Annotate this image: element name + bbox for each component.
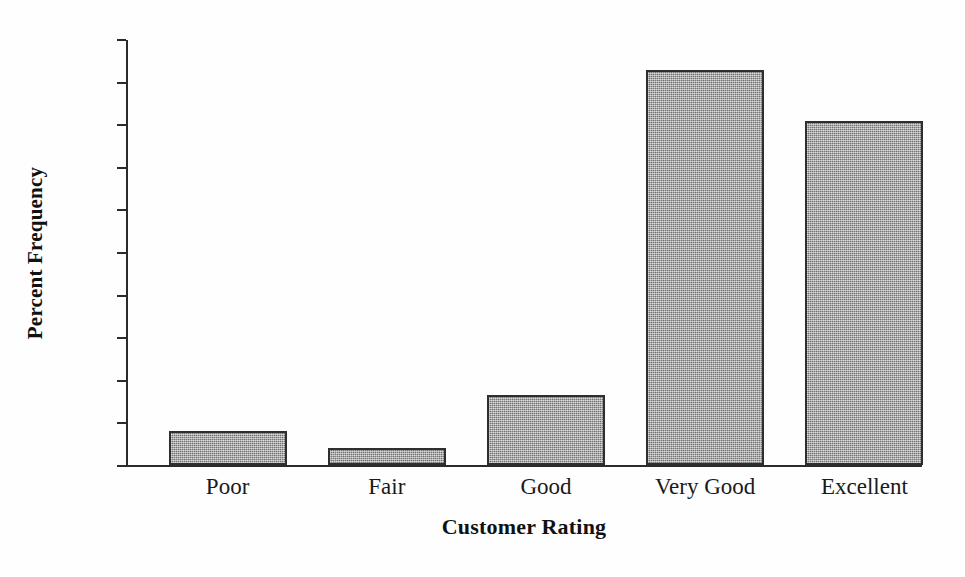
bar (169, 431, 287, 465)
y-axis-line (126, 40, 128, 467)
y-axis-tick (117, 422, 126, 424)
y-axis-title: Percent Frequency (18, 40, 52, 466)
plot-area (126, 40, 922, 466)
y-axis-tick (117, 295, 126, 297)
bar (487, 395, 605, 465)
x-axis-line (126, 465, 922, 467)
bar (805, 121, 923, 465)
y-axis-tick (117, 337, 126, 339)
y-axis-tick (117, 252, 126, 254)
bar (328, 448, 446, 465)
y-axis-tick (117, 209, 126, 211)
y-axis-tick (117, 82, 126, 84)
x-axis-category-label: Excellent (754, 474, 965, 500)
y-axis-tick (117, 380, 126, 382)
bar (646, 70, 764, 465)
y-axis-tick (117, 39, 126, 41)
bar-chart-figure: Percent Frequency 05101520253035404550 P… (0, 0, 965, 577)
y-axis-tick (117, 167, 126, 169)
x-axis-title: Customer Rating (126, 514, 922, 540)
y-axis-tick (117, 465, 126, 467)
y-axis-tick (117, 124, 126, 126)
